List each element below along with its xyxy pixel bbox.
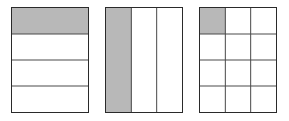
- fraction-rectangle-grid: [199, 7, 277, 113]
- shaded-cell: [12, 8, 88, 34]
- grid-lines: [12, 8, 88, 112]
- shaded-cell: [106, 8, 131, 112]
- fraction-rectangle-columns: [105, 7, 183, 113]
- fraction-rectangle-rows: [11, 7, 89, 113]
- grid-lines: [106, 8, 182, 112]
- grid-lines: [200, 8, 276, 112]
- shaded-cell: [200, 8, 225, 34]
